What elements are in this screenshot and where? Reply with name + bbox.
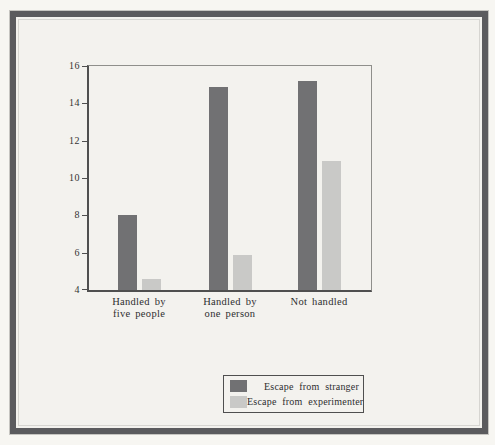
y-axis-tick-label: 14 <box>53 97 80 109</box>
y-axis-tick-mark <box>82 66 87 67</box>
y-axis-tick-mark <box>82 178 87 179</box>
y-axis-tick-mark <box>82 289 87 290</box>
bar-escape-from-stranger-group1 <box>118 215 137 290</box>
bar-escape-from-experimenter-group1 <box>142 279 161 290</box>
legend: Escape from stranger Escape from experim… <box>223 375 364 413</box>
y-axis-tick-label: 8 <box>53 209 80 221</box>
y-axis-tick-mark <box>82 103 87 104</box>
decorative-frame: 46810121416Handled byfive peopleHandled … <box>10 11 488 434</box>
y-axis-tick-mark <box>82 215 87 216</box>
y-axis-tick-label: 16 <box>53 60 80 72</box>
y-axis-tick-label: 4 <box>53 284 80 296</box>
bar-escape-from-stranger-group3 <box>298 81 317 290</box>
x-axis-category-label: Handled byfive people <box>89 296 189 319</box>
bar-escape-from-experimenter-group2 <box>233 255 252 290</box>
legend-label-experimenter: Escape from experimenter <box>247 396 363 407</box>
legend-item-experimenter: Escape from experimenter <box>230 394 359 409</box>
legend-item-stranger: Escape from stranger <box>230 379 359 394</box>
y-axis-tick-mark <box>82 141 87 142</box>
y-axis-tick-label: 10 <box>53 172 80 184</box>
x-axis-category-label: Handled byone person <box>180 296 280 319</box>
legend-label-stranger: Escape from stranger <box>264 381 359 392</box>
y-axis-tick-mark <box>82 253 87 254</box>
plot-area: 46810121416Handled byfive peopleHandled … <box>87 65 372 292</box>
y-axis-tick-label: 12 <box>53 135 80 147</box>
legend-swatch-experimenter <box>230 396 247 408</box>
legend-swatch-stranger <box>230 380 247 392</box>
y-axis-tick-label: 6 <box>53 247 80 259</box>
x-axis-category-label: Not handled <box>269 296 369 308</box>
bar-escape-from-experimenter-group3 <box>322 161 341 290</box>
bar-escape-from-stranger-group2 <box>209 87 228 290</box>
